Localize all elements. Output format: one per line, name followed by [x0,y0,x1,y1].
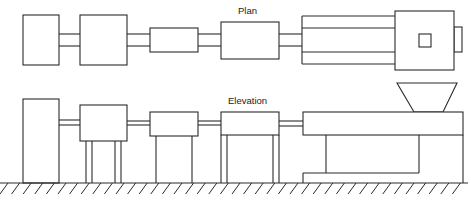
elevation-unit-2 [80,105,127,183]
plan-unit-3 [150,28,198,52]
elevation-view-label: Elevation [228,96,267,106]
plan-unit-2 [80,15,127,65]
plan-unit-1 [23,15,59,65]
elevation-connector-2-3 [127,121,150,125]
plan-unit-4 [221,22,279,59]
plan-hopper-opening [419,34,431,47]
elevation-connector-1-2 [59,120,80,125]
plan-view [23,11,462,70]
plan-extruder-cylinder [302,16,395,64]
elevation-connector-4-5 [279,121,303,126]
plan-connector-3-4 [198,34,221,46]
machine-layout-diagram: Plan Elevation [0,0,471,205]
plan-end-nub [454,27,462,52]
elevation-unit-3 [150,112,198,183]
plan-view-label: Plan [238,6,257,16]
elevation-unit-1 [23,99,59,183]
plan-connector-1-2 [59,34,80,46]
elevation-extruder [303,112,463,183]
elevation-unit-4 [221,112,279,183]
elevation-hopper [397,83,457,112]
plan-connector-2-3 [127,34,150,46]
ground-hatching [0,183,468,194]
elevation-connector-3-4 [198,121,221,125]
plan-connector-4-5 [279,34,302,46]
